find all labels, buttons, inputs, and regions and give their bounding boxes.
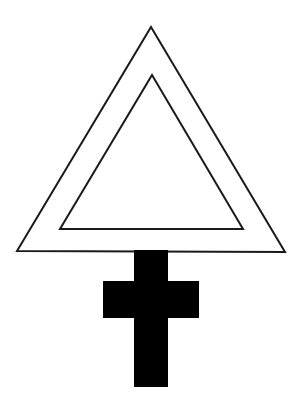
cross-horizontal-arm [103, 281, 199, 318]
symbol-illustration [0, 0, 303, 403]
cross-vertical-bar [134, 250, 168, 387]
figure-canvas [0, 0, 303, 403]
